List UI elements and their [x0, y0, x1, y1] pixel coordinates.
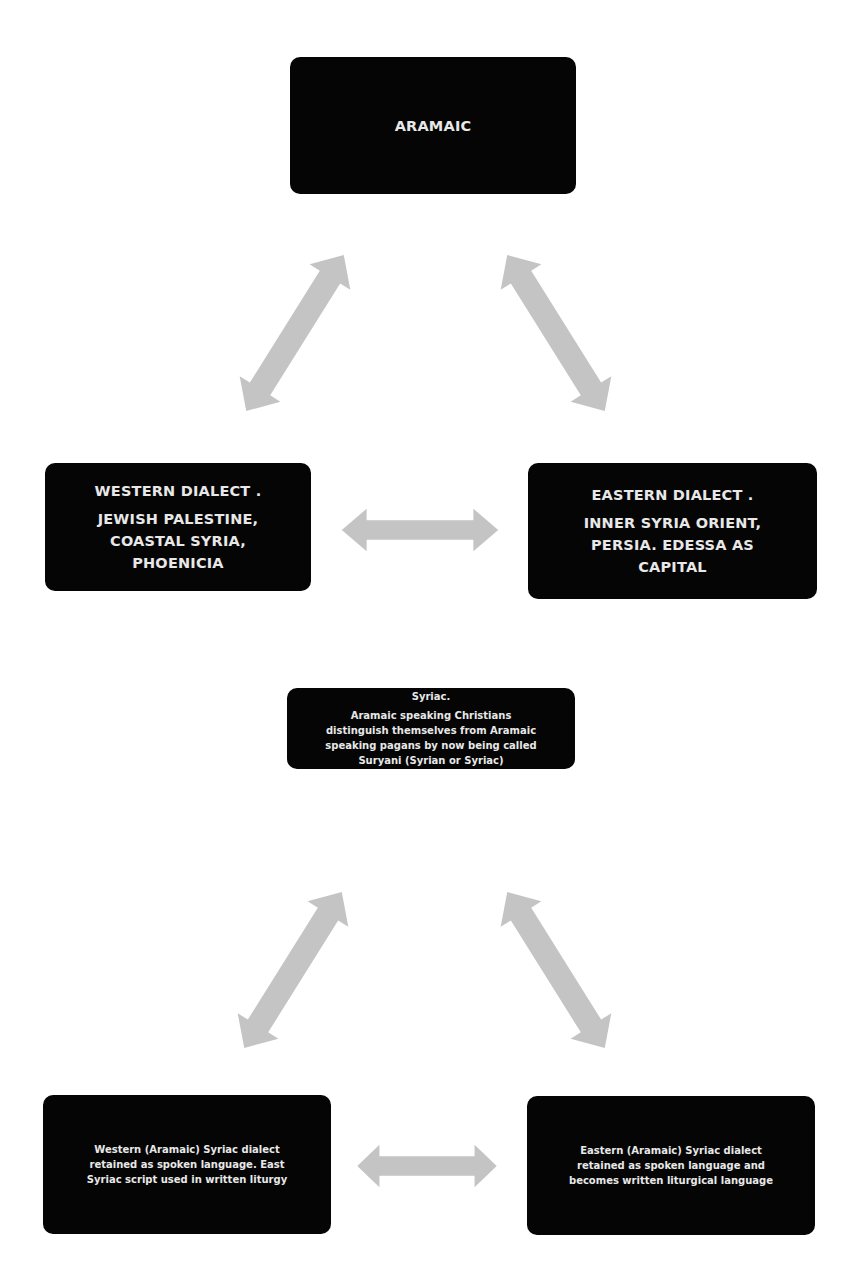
node-eastern-syriac-line: retained as spoken language and	[577, 1158, 765, 1173]
node-eastern-dialect-line: CAPITAL	[638, 556, 707, 578]
node-western-dialect-line: COASTAL SYRIA,	[110, 530, 246, 552]
node-eastern-dialect: EASTERN DIALECT . INNER SYRIA ORIENT, PE…	[528, 463, 817, 599]
node-western-dialect-line: JEWISH PALESTINE,	[98, 508, 259, 530]
node-western-dialect: WESTERN DIALECT . JEWISH PALESTINE, COAS…	[45, 463, 311, 591]
arrow-aramaic-eastern	[487, 242, 625, 423]
node-syriac-line: speaking pagans by now being called	[325, 738, 536, 753]
arrow-aramaic-western	[226, 242, 364, 423]
node-syriac-line: Suryani (Syrian or Syriac)	[358, 753, 503, 768]
node-syriac-heading: Syriac.	[412, 689, 451, 704]
node-eastern-dialect-heading: EASTERN DIALECT .	[591, 484, 753, 506]
node-eastern-dialect-line: PERSIA. EDESSA AS	[591, 534, 754, 556]
node-western-syriac-line: retained as spoken language. East	[90, 1157, 285, 1172]
node-eastern-syriac: Eastern (Aramaic) Syriac dialect retaine…	[527, 1096, 815, 1235]
arrow-syriac-eastern	[487, 879, 625, 1060]
node-syriac-line: distinguish themselves from Aramaic	[326, 723, 536, 738]
node-western-syriac-line: Western (Aramaic) Syriac dialect	[94, 1142, 280, 1157]
node-eastern-syriac-line: Eastern (Aramaic) Syriac dialect	[580, 1143, 762, 1158]
arrow-syriac-western	[224, 879, 362, 1060]
arrow-western-eastern-dialect	[342, 509, 498, 552]
node-eastern-syriac-line: becomes written liturgical language	[569, 1173, 773, 1188]
node-eastern-dialect-line: INNER SYRIA ORIENT,	[584, 512, 762, 534]
node-syriac: Syriac. Aramaic speaking Christians dist…	[287, 688, 575, 769]
node-western-dialect-line: PHOENICIA	[132, 552, 224, 574]
arrow-western-eastern-syriac	[357, 1145, 496, 1188]
node-aramaic-label: ARAMAIC	[395, 115, 472, 137]
node-western-syriac: Western (Aramaic) Syriac dialect retaine…	[43, 1095, 331, 1234]
node-western-dialect-heading: WESTERN DIALECT .	[95, 480, 262, 502]
node-aramaic: ARAMAIC	[290, 57, 576, 194]
node-western-syriac-line: Syriac script used in written liturgy	[87, 1172, 287, 1187]
node-syriac-line: Aramaic speaking Christians	[351, 708, 512, 723]
